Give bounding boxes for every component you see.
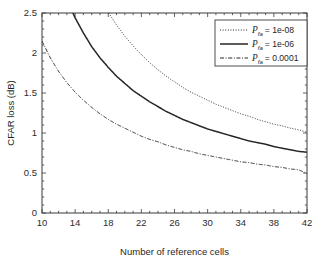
cfar-loss-chart: 101418222630343842 00.511.522.5 Number o… [0, 0, 323, 265]
y-tick-label: 1 [32, 127, 37, 138]
x-tick-label: 30 [202, 217, 213, 228]
x-tick-label: 10 [37, 217, 48, 228]
y-tick-label: 2 [32, 47, 37, 58]
y-tick-label: 0.5 [24, 167, 37, 178]
x-tick-label: 42 [302, 217, 313, 228]
legend-label-1: Pfa= 1e-08 [251, 25, 294, 36]
legend-label-2: Pfa= 1e-06 [251, 39, 294, 50]
x-tick-label: 26 [169, 217, 180, 228]
y-tick-label: 0 [32, 207, 37, 218]
x-tick-label: 22 [136, 217, 147, 228]
x-axis-tick-labels: 101418222630343842 [37, 217, 313, 228]
x-tick-label: 34 [235, 217, 246, 228]
x-tick-label: 38 [269, 217, 280, 228]
y-tick-label: 1.5 [24, 87, 37, 98]
chart-figure: 101418222630343842 00.511.522.5 Number o… [0, 0, 323, 265]
x-tick-label: 18 [103, 217, 114, 228]
chart-legend: Pfa= 1e-08Pfa= 1e-06Pfa= 0.0001 [215, 20, 307, 66]
x-axis-title: Number of reference cells [120, 246, 229, 257]
y-tick-label: 2.5 [24, 7, 37, 18]
x-tick-label: 14 [70, 217, 81, 228]
y-axis-title: CFAR loss (dB) [5, 80, 16, 145]
